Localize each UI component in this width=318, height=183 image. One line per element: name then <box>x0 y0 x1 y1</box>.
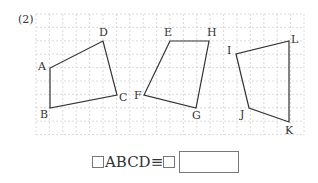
quadrilateral-abcd <box>50 41 117 108</box>
vertex-label-i: I <box>227 44 231 57</box>
vertex-label-h: H <box>207 26 217 39</box>
vertex-label-e: E <box>164 26 172 39</box>
blank-box-1[interactable] <box>92 156 104 168</box>
vertex-label-g: G <box>192 109 201 122</box>
vertex-label-l: L <box>291 33 299 46</box>
vertex-label-a: A <box>37 60 47 73</box>
vertex-label-k: K <box>285 124 294 137</box>
answer-input-box[interactable] <box>179 151 239 173</box>
vertex-label-b: B <box>40 108 48 121</box>
congruent-symbol: ≡ <box>151 153 164 171</box>
shape-name-abcd: ABCD <box>105 153 151 171</box>
congruence-answer: ABCD ≡ <box>92 150 239 174</box>
grid-figure: ABCDEFGHIJKL <box>0 0 318 140</box>
blank-box-2[interactable] <box>163 156 175 168</box>
quadrilateral-efgh <box>144 41 209 108</box>
vertex-label-f: F <box>134 89 142 102</box>
vertex-label-j: J <box>239 108 244 121</box>
vertex-label-c: C <box>119 91 127 104</box>
vertex-label-d: D <box>99 26 108 39</box>
